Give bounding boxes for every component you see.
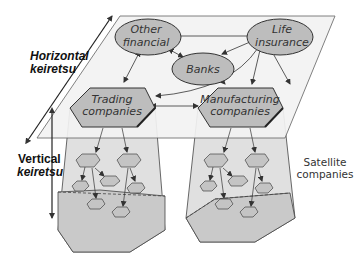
svg-text:Banks: Banks bbox=[186, 63, 220, 76]
satellite-companies-label: Satellite companies bbox=[296, 156, 353, 180]
svg-text:companies: companies bbox=[82, 105, 142, 118]
svg-text:companies: companies bbox=[210, 105, 270, 118]
node-other-financial: Other financial bbox=[115, 19, 181, 55]
svg-text:keiretsu: keiretsu bbox=[17, 165, 64, 179]
node-banks: Banks bbox=[172, 53, 234, 85]
keiretsu-diagram: Other financial Life insurance Banks Tra… bbox=[0, 0, 356, 257]
svg-text:financial: financial bbox=[123, 36, 170, 49]
node-manufacturing-companies: Manufacturing companies bbox=[198, 88, 283, 127]
svg-text:keiretsu: keiretsu bbox=[30, 62, 77, 76]
horizontal-keiretsu-label: Horizontal keiretsu bbox=[30, 49, 89, 76]
svg-text:insurance: insurance bbox=[255, 36, 309, 49]
vertical-keiretsu-label: Vertical keiretsu bbox=[17, 152, 64, 179]
node-life-insurance: Life insurance bbox=[247, 19, 313, 55]
svg-text:Horizontal: Horizontal bbox=[30, 49, 89, 63]
svg-text:Other: Other bbox=[130, 23, 163, 36]
svg-text:Life: Life bbox=[272, 23, 292, 36]
svg-text:Vertical: Vertical bbox=[18, 152, 61, 166]
svg-text:companies: companies bbox=[296, 168, 353, 180]
svg-text:Satellite: Satellite bbox=[303, 156, 346, 168]
